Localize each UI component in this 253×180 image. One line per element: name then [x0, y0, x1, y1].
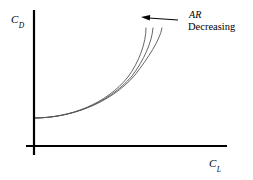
annotation-arrow [141, 15, 178, 21]
y-axis-label-subscript: D [19, 21, 24, 30]
annotation-label-ar: AR [189, 10, 202, 20]
drag-polar-figure: CD CL AR Decreasing [0, 0, 253, 180]
x-axis-label-symbol: C [209, 157, 216, 169]
annotation-label-decreasing: Decreasing [188, 22, 235, 33]
y-axis-label: CD [11, 14, 24, 28]
x-axis-label: CL [209, 158, 221, 172]
drag-polar-curves [34, 28, 162, 118]
y-axis-label-symbol: C [11, 13, 18, 25]
curve-ar-high [34, 28, 162, 118]
arrow-shaft [147, 18, 178, 20]
x-axis-label-subscript: L [217, 165, 221, 174]
arrow-head-icon [141, 15, 150, 21]
curve-ar-low [34, 28, 146, 118]
